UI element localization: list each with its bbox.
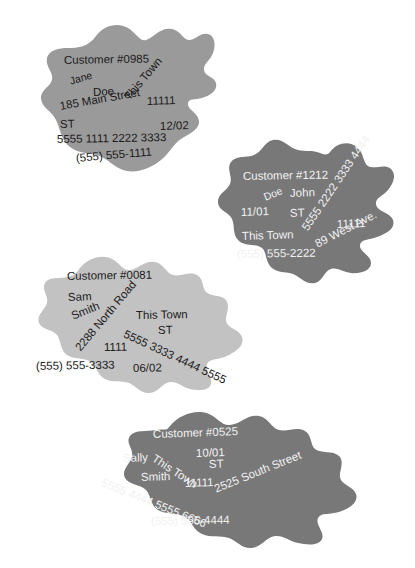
record-0081-card-number: 5555 3333 4444 5555 (122, 329, 228, 387)
record-0081-city: This Town (136, 309, 188, 321)
record-0525-customer-label: Customer #0525 (153, 426, 238, 440)
record-0081-zip: 1111 (104, 342, 127, 354)
record-1212-customer-label: Customer #1212 (243, 170, 328, 183)
record-0081-expiry: 06/02 (133, 362, 162, 374)
record-0985-state: ST (60, 119, 75, 131)
record-1212-state: ST (290, 207, 305, 219)
record-1212-first-name: John (290, 187, 315, 199)
record-0985-customer-label: Customer #0985 (64, 54, 149, 67)
record-0525-first-name: Sally (123, 452, 148, 464)
record-0985-card-number: 5555 1111 2222 3333 (57, 132, 167, 145)
record-0081-state: ST (158, 325, 173, 337)
record-0985-zip: 11111 (147, 95, 176, 107)
record-0525-zip: 11111 (185, 477, 214, 489)
record-0081-phone: (555) 555-3333 (36, 360, 115, 373)
record-1212-phone: (555) 555-2222 (237, 248, 316, 261)
record-0525-last-name: Smith (141, 471, 171, 484)
record-1212-last-name: Doe (262, 185, 284, 202)
record-0985-phone: (555) 555-1111 (75, 146, 152, 164)
record-1212-city: This Town (242, 229, 294, 242)
record-0525-phone: (555) 555-4444 (151, 515, 230, 528)
record-0985-first-name: Jane (68, 70, 93, 87)
record-0081-customer-label: Customer #0081 (67, 270, 152, 283)
record-0525-state: ST (209, 458, 224, 470)
blob-diagram-canvas: Customer #0985 Jane Doe This Town 11111 … (0, 0, 415, 568)
record-1212-expiry: 11/01 (241, 206, 269, 218)
record-0525-street: 2525 South Street (213, 450, 303, 495)
record-1212-street: 89 West Ave. (313, 209, 378, 250)
